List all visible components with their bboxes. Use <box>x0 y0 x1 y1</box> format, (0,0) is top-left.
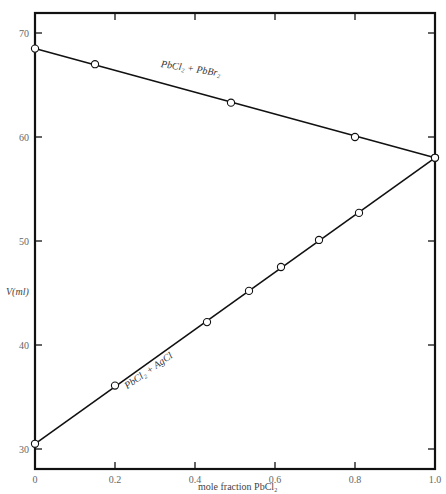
y-tick-label: 70 <box>19 28 29 39</box>
y-tick-label: 30 <box>19 444 29 455</box>
series-line-1 <box>35 158 435 444</box>
data-point <box>31 45 38 52</box>
x-tick-label: 1.0 <box>429 474 442 485</box>
x-axis-label: mole fraction PbCl₂ <box>198 481 278 492</box>
data-point <box>245 287 252 294</box>
data-point <box>431 154 438 161</box>
x-tick-label: 0.2 <box>109 474 122 485</box>
y-tick-label: 50 <box>19 236 29 247</box>
data-point <box>355 209 362 216</box>
data-point <box>315 236 322 243</box>
data-point <box>91 61 98 68</box>
x-tick-label: 0 <box>33 474 38 485</box>
data-point <box>227 99 234 106</box>
data-point <box>203 319 210 326</box>
y-axis-label: V(ml) <box>6 286 29 297</box>
data-point <box>31 440 38 447</box>
y-tick-label: 40 <box>19 340 29 351</box>
data-point <box>351 133 358 140</box>
y-tick-label: 60 <box>19 132 29 143</box>
x-tick-label: 0.8 <box>349 474 362 485</box>
data-point <box>277 263 284 270</box>
plot-area: 00.20.40.60.81.03040506070 <box>0 0 446 494</box>
data-point <box>111 382 118 389</box>
